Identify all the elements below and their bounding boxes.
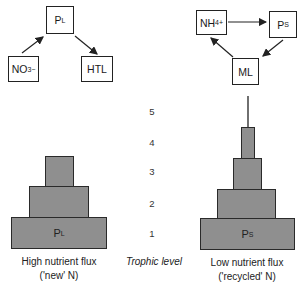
nitrate-box: NO3− xyxy=(8,56,39,82)
left-caption-line1: High nutrient flux xyxy=(4,255,114,269)
right-caption: Low nutrient flux ('recycled' N) xyxy=(193,256,301,283)
left-pyramid-level-2 xyxy=(29,186,89,218)
ammonium-label: NH xyxy=(200,17,215,29)
nitrate-label: NO xyxy=(12,63,28,75)
producer-large-sub: L xyxy=(62,17,66,24)
right-caption-line2: ('recycled' N) xyxy=(193,270,301,283)
producer-small-label: P xyxy=(277,19,284,31)
left-caption: High nutrient flux ('new' N) xyxy=(4,255,114,283)
left-base-label: P xyxy=(53,227,60,239)
htl-label: HTL xyxy=(87,63,107,75)
left-base-sub: L xyxy=(61,230,65,237)
htl-box: HTL xyxy=(81,56,113,82)
arrow-producer-to-htl xyxy=(75,36,97,54)
trophic-level-title: Trophic level xyxy=(118,255,190,269)
right-base-label: P xyxy=(241,228,248,240)
ammonium-box: NH4+ xyxy=(196,10,227,35)
right-caption-line1: Low nutrient flux xyxy=(193,256,301,270)
trophic-level-5: 5 xyxy=(146,106,158,117)
nitrate-charge: − xyxy=(31,66,35,73)
producer-small-box: PS xyxy=(269,11,297,38)
arrow-producer-to-ml xyxy=(263,40,283,56)
left-pyramid-level-3 xyxy=(45,156,74,187)
trophic-level-2: 2 xyxy=(146,198,158,209)
producer-large-label: P xyxy=(55,14,62,26)
ml-box: ML xyxy=(232,58,259,85)
producer-large-box: PL xyxy=(46,6,74,34)
right-pyramid-level-2 xyxy=(217,189,276,219)
arrow-nitrate-to-producer xyxy=(22,37,43,53)
trophic-level-1: 1 xyxy=(146,228,158,239)
right-pyramid-level-1: PS xyxy=(200,218,295,250)
right-base-sub: S xyxy=(249,231,254,238)
ml-label: ML xyxy=(238,66,253,78)
producer-small-sub: S xyxy=(284,21,289,28)
trophic-level-3: 3 xyxy=(146,166,158,177)
arrow-ml-to-ammonium xyxy=(211,38,233,57)
right-pyramid-level-4 xyxy=(241,127,255,159)
left-pyramid-level-1: PL xyxy=(11,217,107,249)
left-caption-line2: ('new' N) xyxy=(4,269,114,283)
right-pyramid-level-3 xyxy=(233,158,262,190)
ammonium-charge: + xyxy=(219,19,223,26)
trophic-level-4: 4 xyxy=(146,137,158,148)
